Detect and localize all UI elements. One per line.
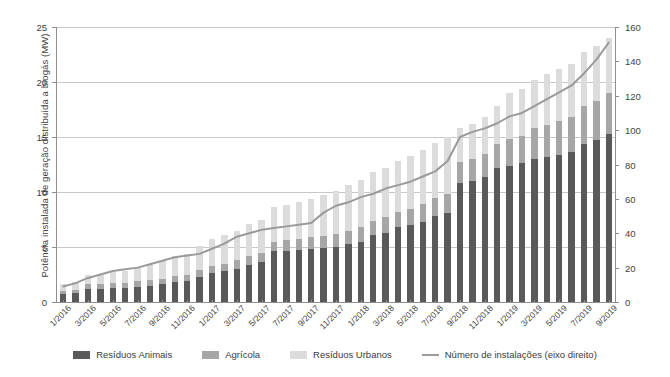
y-axis-right-tick-label: 80 (625, 159, 636, 170)
y-axis-left-tick-mark (52, 27, 56, 28)
y-axis-left-tick-mark (52, 82, 56, 83)
y-axis-right-tick-mark (615, 233, 619, 234)
x-axis-tick-mark (336, 300, 337, 303)
y-axis-left-tick-mark (52, 247, 56, 248)
x-axis-tick-label: 5/2019 (544, 303, 569, 328)
plot-area (57, 27, 615, 302)
y-axis-right-tick-label: 60 (625, 193, 636, 204)
x-axis-tick-mark (237, 300, 238, 303)
y-axis-right-tick-mark (615, 199, 619, 200)
x-axis-tick-mark (212, 300, 213, 303)
y-axis-left-tick-mark (52, 192, 56, 193)
x-axis-tick-mark (559, 300, 560, 303)
y-axis-right-tick-mark (615, 27, 619, 28)
x-axis-tick-label: 11/2018 (467, 303, 495, 331)
y-axis-left-tick-label: 10 (36, 187, 47, 198)
x-axis-tick-mark (534, 300, 535, 303)
x-axis-tick-label: 3/2019 (519, 303, 544, 328)
legend-item[interactable]: Agrícola (202, 349, 260, 360)
y-axis-right-ticks: 020406080100120140160 (615, 27, 670, 302)
y-axis-right-tick-label: 140 (625, 56, 641, 67)
y-axis-right-tick-mark (615, 302, 619, 303)
x-axis-tick-mark (410, 300, 411, 303)
legend-item[interactable]: Resíduos Urbanos (290, 349, 392, 360)
legend-label: Resíduos Animais (96, 349, 172, 360)
legend-item[interactable]: Resíduos Animais (73, 349, 172, 360)
x-axis-tick-mark (386, 300, 387, 303)
x-axis-tick-mark (584, 300, 585, 303)
x-axis-tick-label: 5/2018 (395, 303, 420, 328)
y-axis-right-tick-mark (615, 96, 619, 97)
x-axis-tick-mark (63, 300, 64, 303)
x-axis-tick-mark (609, 300, 610, 303)
x-axis-tick-label: 5/2017 (246, 303, 271, 328)
x-axis-tick-label: 1/2018 (345, 303, 370, 328)
x-axis-tick-label: 11/2017 (318, 303, 346, 331)
y-axis-right-tick-label: 40 (625, 228, 636, 239)
x-axis-tick-label: 11/2016 (169, 303, 197, 331)
x-axis-tick-label: 7/2018 (420, 303, 445, 328)
x-axis-tick-mark (286, 300, 287, 303)
legend-label: Número de instalações (eixo direito) (445, 349, 597, 360)
y-axis-left-tick-label: 25 (36, 22, 47, 33)
y-axis-left-tick-label: 5 (42, 242, 47, 253)
y-axis-right-tick-mark (615, 165, 619, 166)
x-axis-tick-label: 1/2016 (48, 303, 73, 328)
x-axis-ticks: 1/20163/20165/20167/20169/201611/20161/2… (57, 303, 615, 345)
x-axis-tick-mark (510, 300, 511, 303)
x-axis-tick-label: 7/2016 (122, 303, 147, 328)
legend-color-swatch (202, 351, 219, 359)
y-axis-right-tick-label: 160 (625, 22, 641, 33)
x-axis-tick-label: 3/2017 (221, 303, 246, 328)
y-axis-left-tick-mark (52, 302, 56, 303)
x-axis-tick-mark (435, 300, 436, 303)
y-axis-right-tick-mark (615, 130, 619, 131)
y-axis-left-tick-label: 15 (36, 132, 47, 143)
x-axis-tick-mark (361, 300, 362, 303)
x-axis-tick-label: 9/2019 (593, 303, 618, 328)
x-axis-tick-label: 5/2016 (97, 303, 122, 328)
legend-item[interactable]: Número de instalações (eixo direito) (422, 349, 597, 360)
x-axis-tick-mark (311, 300, 312, 303)
y-axis-right-tick-label: 100 (625, 125, 641, 136)
y-axis-left-tick-label: 0 (42, 297, 47, 308)
x-axis-tick-mark (460, 300, 461, 303)
x-axis-tick-mark (113, 300, 114, 303)
y-axis-right-tick-label: 120 (625, 90, 641, 101)
x-axis-tick-mark (485, 300, 486, 303)
x-axis-tick-label: 7/2017 (271, 303, 296, 328)
x-axis-tick-mark (262, 300, 263, 303)
x-axis-tick-label: 7/2019 (569, 303, 594, 328)
y-axis-left-tick-mark (52, 137, 56, 138)
y-axis-right-tick-mark (615, 268, 619, 269)
legend-color-swatch (73, 351, 90, 359)
legend-label: Resíduos Urbanos (313, 349, 392, 360)
legend-label: Agrícola (225, 349, 260, 360)
y-axis-right-tick-label: 0 (625, 297, 630, 308)
x-axis-tick-label: 1/2017 (197, 303, 222, 328)
y-axis-left-tick-label: 20 (36, 77, 47, 88)
legend-line-swatch (422, 354, 439, 356)
x-axis-tick-mark (187, 300, 188, 303)
installations-line-series (57, 27, 615, 302)
x-axis-tick-label: 3/2016 (73, 303, 98, 328)
y-axis-right-tick-label: 20 (625, 262, 636, 273)
biogas-distributed-generation-chart: Potência instalada de geração distribuíd… (0, 0, 670, 377)
x-axis-tick-label: 1/2019 (494, 303, 519, 328)
x-axis-tick-label: 3/2018 (370, 303, 395, 328)
x-axis-tick-mark (162, 300, 163, 303)
y-axis-left-ticks: 0510152025 (0, 27, 57, 302)
y-axis-right-tick-mark (615, 61, 619, 62)
x-axis-tick-mark (138, 300, 139, 303)
installations-line-path (63, 42, 609, 286)
chart-legend: Resíduos AnimaisAgrícolaResíduos Urbanos… (0, 349, 670, 360)
x-axis-tick-mark (88, 300, 89, 303)
legend-color-swatch (290, 351, 307, 359)
